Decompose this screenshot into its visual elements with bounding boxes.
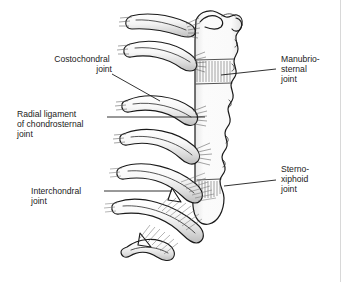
anatomical-figure: Costochondral joint Radial ligament of c… <box>0 0 347 282</box>
sternoxiphoid-line-3: joint <box>280 184 297 194</box>
costal-cartilage-2 <box>124 41 197 71</box>
radial-ligament-line-2: of chondrosternal <box>17 119 83 129</box>
costochondral-line-1: Costochondral <box>54 54 110 64</box>
radial-ligament-line-1: Radial ligament <box>17 109 77 119</box>
costal-cartilage-3 <box>122 96 198 126</box>
svg-text:Sterno- xiphoid: Sterno- xiphoid joint <box>280 164 312 194</box>
manubriosternal-line-1: Manubrio- <box>281 54 320 64</box>
costal-cartilage-6 <box>112 199 204 243</box>
sternoxiphoid-line-1: Sterno- <box>281 164 309 174</box>
costochondral-line-2: joint <box>95 64 112 74</box>
svg-text:Radial ligament of cho: Radial ligament of chondrosternal joint <box>16 109 86 139</box>
manubriosternal-line-2: sternal <box>281 64 307 74</box>
svg-text:Interchondral joint: Interchondral joint <box>30 186 84 206</box>
sternoxiphoid-line-2: xiphoid <box>281 174 308 184</box>
label-manubriosternal-joint: Manubrio- sternal joint <box>280 54 322 84</box>
sternum-illustration: Costochondral joint Radial ligament of c… <box>0 0 347 282</box>
costal-cartilage-1 <box>126 14 195 37</box>
manubriosternal-line-3: joint <box>280 74 297 84</box>
leader-sternoxiphoid <box>224 180 276 186</box>
radial-ligament-line-3: joint <box>16 129 33 139</box>
costal-cartilage-5 <box>117 164 203 203</box>
costal-cartilage-4 <box>120 129 200 164</box>
label-radial-ligament: Radial ligament of chondrosternal joint <box>16 109 86 139</box>
svg-text:Manubrio- sternal: Manubrio- sternal joint <box>280 54 322 84</box>
interchondral-line-1: Interchondral <box>31 186 81 196</box>
label-sternoxiphoid-joint: Sterno- xiphoid joint <box>280 164 312 194</box>
svg-text:Costochondral joint: Costochondral joint <box>54 54 112 74</box>
interchondral-line-2: joint <box>30 196 47 206</box>
label-interchondral-joint: Interchondral joint <box>30 186 84 206</box>
label-costochondral-joint: Costochondral joint <box>54 54 112 74</box>
